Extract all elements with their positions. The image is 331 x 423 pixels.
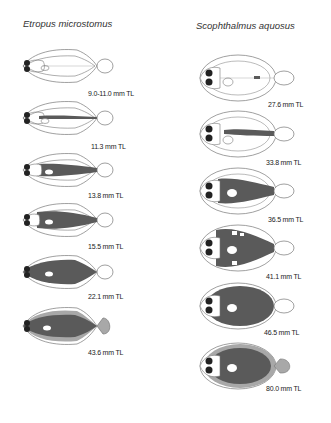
fish-etropus-stage-2 — [15, 98, 115, 140]
fish-scophthalmus-stage-2 — [196, 108, 300, 160]
stage-label: 22.1 mm TL — [88, 293, 123, 300]
stage-label: 43.6 mm TL — [88, 349, 123, 356]
fish-scophthalmus-stage-3 — [196, 165, 300, 217]
species-title-etropus: Etropus microstomus — [23, 18, 112, 29]
stage-label: 15.5 mm TL — [88, 243, 123, 250]
fish-scophthalmus-stage-4 — [196, 222, 300, 274]
stage-label: 13.8 mm TL — [88, 192, 123, 199]
fish-scophthalmus-stage-5 — [196, 280, 300, 332]
stage-label: 80.0 mm TL — [266, 385, 301, 392]
species-title-scophthalmus: Scophthalmus aquosus — [196, 20, 295, 31]
stage-label: 46.5 mm TL — [264, 329, 299, 336]
fish-etropus-stage-6 — [15, 304, 115, 350]
eye-icon — [24, 60, 30, 66]
fish-etropus-stage-4 — [15, 200, 115, 242]
stage-label: 9.0-11.0 mm TL — [88, 90, 134, 97]
fish-etropus-stage-5 — [15, 252, 115, 294]
stage-label: 11.3 mm TL — [91, 143, 126, 150]
fish-etropus-stage-3 — [15, 150, 115, 192]
fish-scophthalmus-stage-1 — [196, 52, 300, 104]
stage-label: 27.6 mm TL — [268, 101, 303, 108]
stage-label: 41.1 mm TL — [266, 273, 301, 280]
fish-etropus-stage-1 — [15, 46, 115, 88]
